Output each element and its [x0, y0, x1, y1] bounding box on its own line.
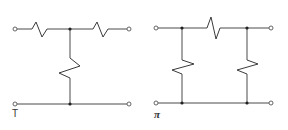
pi-terminal-top-left	[154, 26, 158, 30]
t-terminal-top-left	[13, 27, 17, 31]
circuit-diagram	[0, 0, 288, 130]
t-terminal-bottom-left	[13, 102, 17, 106]
t-terminal-top-right	[127, 27, 131, 31]
t-network	[13, 22, 131, 106]
t-series-resistor-left	[32, 22, 47, 37]
t-terminal-bottom-right	[127, 102, 131, 106]
pi-terminal-bottom-left	[154, 101, 158, 105]
pi-right-shunt-resistor	[237, 60, 258, 74]
pi-junction-bottom-left	[180, 101, 183, 104]
pi-terminal-bottom-right	[269, 101, 273, 105]
pi-junction-bottom-right	[245, 101, 248, 104]
t-network-label: T	[12, 108, 18, 119]
t-series-resistor-right	[93, 22, 108, 37]
pi-network-label: π	[154, 108, 160, 120]
pi-junction-top-right	[245, 26, 248, 29]
pi-series-resistor	[207, 17, 220, 39]
t-junction-top	[68, 27, 71, 30]
pi-network	[154, 17, 273, 105]
pi-junction-top-left	[180, 26, 183, 29]
pi-terminal-top-right	[269, 26, 273, 30]
t-shunt-resistor	[59, 58, 80, 78]
pi-left-shunt-resistor	[172, 60, 194, 74]
t-junction-bottom	[68, 102, 71, 105]
